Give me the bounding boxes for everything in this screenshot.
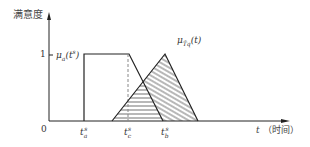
tick-sup: s xyxy=(165,125,168,132)
mu-arg: (t xyxy=(65,50,72,60)
tick-sub: c xyxy=(128,132,131,139)
tick-sup: s xyxy=(84,125,87,132)
x-axis-var: t xyxy=(256,125,260,135)
x-axis-arrow-icon xyxy=(281,119,290,123)
x-tick-label-tc: tcs xyxy=(124,126,131,139)
mu-arg: (t) xyxy=(191,35,202,45)
origin-label: 0 xyxy=(41,125,47,134)
mu-subscript: T̃q xyxy=(183,40,191,47)
x-tick-label-tb: tbs xyxy=(161,126,169,139)
mu-close: ) xyxy=(76,50,80,60)
y-axis-label: 满意度 xyxy=(13,10,43,20)
tick-sub: b xyxy=(165,132,169,139)
tick-sub: a xyxy=(84,132,88,139)
triangle-label: μT̃q(t) xyxy=(177,36,201,47)
trapezoid-label: μa(ts) xyxy=(56,49,79,62)
y-tick-label-one: 1 xyxy=(40,50,46,59)
tick-sup: s xyxy=(128,125,131,132)
y-axis-arrow-icon xyxy=(47,12,51,20)
x-axis-label: t （时间） xyxy=(256,126,299,135)
x-axis-text: （时间） xyxy=(263,125,299,135)
x-tick-label-ta: tas xyxy=(80,126,87,139)
